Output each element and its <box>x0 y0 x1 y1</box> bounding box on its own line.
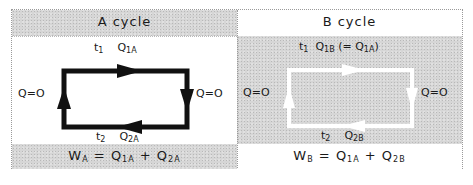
cycle-rectangle <box>289 70 412 126</box>
arrow-up-icon <box>283 86 295 108</box>
panel-b-bottom-label: t2 Q2B <box>321 129 364 143</box>
arrow-right-icon <box>342 64 365 76</box>
panel-b-work-formula: WB = Q1A + Q2B <box>237 144 462 169</box>
panel-a-title: A cycle <box>98 14 152 29</box>
panel-b-body: t1 Q1B (= Q1A) Q=O Q=O t2 Q2B <box>237 36 462 144</box>
cycle-rectangle <box>64 71 187 127</box>
panel-b-cycle-diagram <box>237 36 462 144</box>
panel-a-bottom-label: t2 Q2A <box>96 130 139 144</box>
arrow-down-icon <box>406 88 418 110</box>
panel-b-title: B cycle <box>323 14 377 29</box>
arrow-down-icon <box>180 89 194 112</box>
panel-a-cycle-diagram <box>12 37 237 145</box>
panel-a-header: A cycle <box>12 10 237 36</box>
arrow-right-icon <box>117 64 142 78</box>
panel-a-body: t1 Q1A Q=O Q=O t2 Q2A <box>12 36 237 144</box>
panel-a-work-formula: WA = Q1A + Q2A <box>12 144 237 169</box>
panel-divider <box>237 10 238 168</box>
arrow-up-icon <box>57 87 71 109</box>
cycle-comparison-figure: A cycle B cycle t1 Q1A Q=O Q=O t2 Q2A t1… <box>11 9 463 169</box>
panel-b-header: B cycle <box>237 10 462 36</box>
